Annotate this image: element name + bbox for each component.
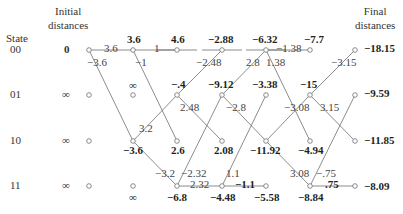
- branch-metric: 2.48: [180, 101, 199, 113]
- path-metric: 2.6: [171, 144, 185, 156]
- branch-metric: −3.6: [87, 56, 107, 68]
- trellis-node-c3-s10: [220, 139, 225, 144]
- trellis-node-c1-s11: [131, 184, 136, 189]
- trellis-node-c2-s10: [175, 139, 180, 144]
- trellis-node-c4-s00: [264, 48, 269, 53]
- trellis-node-c3-s01: [220, 93, 225, 98]
- branch-metric: 3.15: [320, 101, 339, 113]
- path-metric: ∞: [129, 191, 137, 203]
- path-metric: ∞: [129, 79, 137, 91]
- trellis-node-c3-s11: [220, 184, 225, 189]
- path-metric: −15: [300, 78, 317, 90]
- trellis-node-c4-s01: [264, 93, 269, 98]
- path-metric: −9.12: [208, 78, 234, 90]
- final-distances-header: Final distances: [355, 4, 395, 32]
- path-metric: −.4: [171, 78, 186, 90]
- trellis-node-c0-s11: [87, 184, 92, 189]
- path-metric: −5.58: [254, 191, 280, 203]
- branch-metric: 3.6: [104, 42, 118, 54]
- trellis-node-c6-s01: [353, 93, 358, 98]
- path-metric: 3.6: [127, 33, 141, 45]
- branch-metric: 3.2: [139, 122, 153, 134]
- path-metric: −4.94: [298, 144, 324, 156]
- trellis-node-c2-s11: [175, 184, 180, 189]
- trellis-node-c2-s01: [175, 93, 180, 98]
- path-metric: −7.7: [304, 33, 324, 45]
- trellis-node-c0-s10: [87, 139, 92, 144]
- path-metric: 2.08: [214, 144, 233, 156]
- initial-header-line1: Initial: [48, 4, 88, 18]
- path-metric: −3.6: [123, 144, 143, 156]
- trellis-node-c6-s10: [353, 139, 358, 144]
- path-metric: −8.84: [298, 191, 324, 203]
- initial-distances-header: Initial distances: [48, 4, 88, 32]
- trellis-node-c0-s00: [87, 48, 92, 53]
- initial-header-line2: distances: [48, 18, 88, 32]
- final-header-line1: Final: [355, 4, 395, 18]
- branch-metric: −3.2: [155, 167, 175, 179]
- state-label-10: 10: [10, 134, 21, 146]
- path-metric: −2.88: [208, 33, 234, 45]
- branch-metric: 3.08: [290, 167, 309, 179]
- trellis-node-c4-s10: [264, 139, 269, 144]
- trellis-node-c0-s01: [87, 93, 92, 98]
- trellis-node-c1-s10: [131, 139, 136, 144]
- path-metric: −3.38: [252, 78, 278, 90]
- state-label-01: 01: [10, 88, 21, 100]
- initial-distance-11: ∞: [62, 179, 70, 191]
- state-label-11: 11: [10, 179, 21, 191]
- trellis-node-c6-s11: [353, 184, 358, 189]
- branch-metric: 2.32: [190, 178, 209, 190]
- final-header-line2: distances: [355, 18, 395, 32]
- branch-metric: −2.48: [196, 56, 221, 68]
- branch-metric: −1.38: [276, 42, 301, 54]
- state-label-00: 00: [10, 43, 21, 55]
- branch-metric: 1: [154, 42, 160, 54]
- trellis-branches: [89, 50, 355, 186]
- branch-metric: −2.8: [226, 101, 246, 113]
- final-distance-10: −11.85: [364, 134, 394, 146]
- trellis-node-c5-s00: [308, 48, 313, 53]
- path-metric: −11.92: [250, 144, 280, 156]
- trellis-node-c3-s00: [220, 48, 225, 53]
- final-distance-00: −18.15: [364, 42, 395, 54]
- path-metric: −6.32: [252, 33, 278, 45]
- branch-1-2-to-2-1: [133, 95, 177, 141]
- trellis-node-c6-s00: [353, 48, 358, 53]
- initial-distance-00: 0: [64, 43, 70, 55]
- branch-metric: 1.38: [266, 56, 285, 68]
- trellis-node-c2-s00: [175, 48, 180, 53]
- initial-distance-10: ∞: [62, 134, 70, 146]
- final-distance-01: −9.59: [364, 87, 390, 99]
- branch-metric: −1: [135, 56, 147, 68]
- trellis-node-c1-s00: [131, 48, 136, 53]
- branch-metric: −1.1: [235, 178, 255, 190]
- trellis-node-c5-s10: [308, 139, 313, 144]
- branch-metric: −3.15: [331, 56, 356, 68]
- trellis-node-c1-s01: [131, 93, 136, 98]
- trellis-node-c4-s11: [264, 184, 269, 189]
- final-distance-11: −8.09: [364, 180, 390, 192]
- trellis-node-c5-s01: [308, 93, 313, 98]
- initial-distance-01: ∞: [62, 88, 70, 100]
- branch-metric: 2.8: [246, 56, 260, 68]
- trellis-node-c5-s11: [308, 184, 313, 189]
- path-metric: 4.6: [171, 33, 185, 45]
- branch-metric: −3.08: [284, 101, 309, 113]
- path-metric: −6.8: [167, 191, 187, 203]
- branch-metric: .75: [325, 178, 339, 190]
- path-metric: −4.48: [210, 191, 236, 203]
